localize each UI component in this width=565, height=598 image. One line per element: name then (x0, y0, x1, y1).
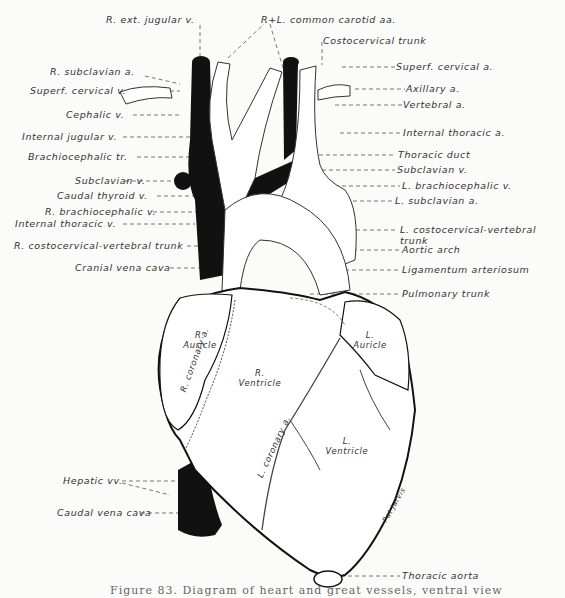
label-r-brachiocephalic-v: R. brachiocephalic v. (45, 206, 156, 217)
label-hepatic-vv: Hepatic vv. (63, 475, 123, 486)
label-r-subclavian-a: R. subclavian a. (50, 66, 135, 77)
label-axillary-a: Axillary a. (406, 83, 460, 94)
label-l-costocervical-vertebral-trunk: L. costocervical-vertebral trunk (400, 224, 545, 246)
label-aortic-arch: Aortic arch (402, 244, 460, 255)
label-vertebral-a: Vertebral a. (403, 99, 466, 110)
label-r-l-common-carotid-aa: R+L. common carotid aa. (261, 14, 396, 25)
label-superf-cervical-v: Superf. cervical v. (30, 85, 126, 96)
label-cranial-vena-cava: Cranial vena cava (75, 262, 171, 273)
label-cephalic-v: Cephalic v. (66, 109, 124, 120)
label-internal-thoracic-v: Internal thoracic v. (15, 218, 116, 229)
figure-caption: Figure 83. Diagram of heart and great ve… (110, 584, 503, 598)
label-internal-thoracic-a: Internal thoracic a. (403, 127, 505, 138)
label-ligamentum-arteriosum: Ligamentum arteriosum (402, 264, 529, 275)
label-l-ventricle: L. Ventricle (322, 436, 372, 456)
label-r-ventricle: R. Ventricle (235, 368, 285, 388)
label-thoracic-duct: Thoracic duct (398, 149, 470, 160)
label-brachiocephalic-tr: Brachiocephalic tr. (28, 151, 128, 162)
label-subclavian-v-right: Subclavian v. (75, 175, 146, 186)
label-r-costocervical-vertebral-trunk: R. costocervical-vertebral trunk (14, 240, 183, 251)
label-subclavian-v-left: Subclavian v. (397, 164, 468, 175)
label-caudal-vena-cava: Caudal vena cava (57, 507, 151, 518)
label-internal-jugular-v: Internal jugular v. (22, 131, 117, 142)
label-thoracic-aorta: Thoracic aorta (402, 570, 479, 581)
label-costocervical-trunk: Costocervical trunk (323, 35, 426, 46)
label-r-ext-jugular-v: R. ext. jugular v. (106, 14, 195, 25)
label-l-brachiocephalic-v: L. brachiocephalic v. (402, 180, 512, 191)
label-caudal-thyroid-v: Caudal thyroid v. (57, 190, 148, 201)
arteries (120, 62, 356, 295)
label-pulmonary-trunk: Pulmonary trunk (402, 288, 490, 299)
label-l-subclavian-a: L. subclavian a. (395, 195, 479, 206)
heart-diagram: R. ext. jugular v. R. subclavian a. Supe… (0, 0, 565, 598)
label-superf-cervical-a: Superf. cervical a. (396, 61, 493, 72)
label-l-auricle: L. Auricle (350, 330, 390, 350)
